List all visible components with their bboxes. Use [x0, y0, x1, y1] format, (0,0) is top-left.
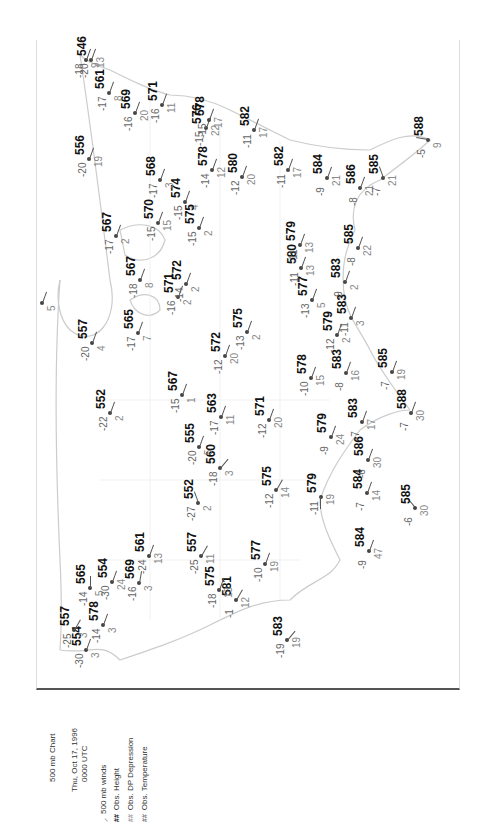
- obs-temperature: -10: [299, 382, 310, 396]
- obs-temperature: -7: [350, 431, 361, 440]
- obs-temperature: -19: [275, 644, 286, 658]
- obs-temperature: -12: [264, 494, 275, 508]
- obs-height: 582: [238, 106, 252, 126]
- obs-dp-depression: 19: [93, 156, 104, 167]
- obs-temperature: -14: [91, 629, 102, 643]
- obs-height: 585: [399, 484, 413, 504]
- obs-dp-depression: 11: [166, 103, 177, 113]
- obs-height: 586: [344, 164, 358, 184]
- obs-temperature: -18: [128, 284, 139, 298]
- obs-dp-depression: 8: [113, 95, 124, 101]
- obs-height: 583: [346, 398, 360, 418]
- obs-height: 584: [311, 154, 325, 174]
- obs-dp-depression: 30: [415, 410, 426, 421]
- obs-dp-depression: 5: [203, 449, 214, 455]
- obs-dp-depression: 17: [292, 167, 303, 178]
- obs-dp-depression: 11: [205, 554, 216, 564]
- legend-item-height: ##Obs. Height: [112, 768, 121, 822]
- obs-temperature: -13: [300, 304, 311, 318]
- obs-temperature: -17: [148, 184, 159, 198]
- obs-temperature: -17: [97, 97, 108, 111]
- obs-height: 571: [146, 81, 160, 101]
- obs-temperature: -30: [100, 586, 111, 600]
- obs-temperature: -1: [224, 609, 235, 618]
- obs-dp-depression: 11: [225, 415, 236, 425]
- obs-height: 585: [367, 154, 381, 174]
- obs-dp-depression: 3: [90, 652, 101, 658]
- obs-dp-depression: 3: [355, 320, 366, 326]
- obs-temperature: -11: [242, 134, 253, 148]
- obs-height: 570: [142, 199, 156, 219]
- obs-temperature: -9: [333, 291, 344, 300]
- legend-date: Thu, Oct 17, 1996: [70, 728, 79, 792]
- obs-height: 585: [342, 224, 356, 244]
- obs-height: 577: [249, 540, 263, 560]
- obs-temperature: -20: [77, 163, 88, 177]
- obs-height: 582: [272, 146, 286, 166]
- obs-temperature: -9: [319, 446, 330, 455]
- obs-temperature: -18: [74, 64, 85, 78]
- obs-temperature: -24: [137, 560, 148, 574]
- obs-temperature: -17: [104, 240, 115, 254]
- obs-height: 565: [74, 564, 88, 584]
- obs-dp-depression: 13: [304, 242, 315, 253]
- obs-temperature: -16: [123, 117, 134, 131]
- obs-temperature: -25: [189, 560, 200, 574]
- obs-height: 569: [123, 559, 137, 579]
- obs-temperature: -11: [289, 272, 300, 286]
- obs-dp-depression: 9: [432, 142, 443, 148]
- obs-height: 565: [122, 309, 136, 329]
- obs-temperature: -10: [253, 568, 264, 582]
- obs-height: 575: [260, 466, 274, 486]
- obs-height: 563: [205, 393, 219, 413]
- obs-dp-depression: 14: [280, 487, 291, 498]
- obs-temperature: -9: [315, 187, 326, 196]
- obs-temperature: -17: [209, 421, 220, 435]
- obs-temperature: -8: [334, 382, 345, 391]
- obs-dp-depression: 13: [305, 265, 316, 276]
- obs-temperature: -17: [126, 337, 137, 351]
- legend-item-winds: ⸝500 mb winds: [98, 765, 109, 822]
- obs-temperature: -15: [170, 399, 181, 413]
- obs-height: 567: [124, 256, 138, 276]
- obs-temperature: -15: [187, 232, 198, 246]
- obs-dp-depression: 24: [116, 579, 127, 590]
- obs-dp-depression: 15: [315, 375, 326, 386]
- obs-dp-depression: 2: [120, 238, 131, 244]
- obs-dp-depression: 16: [350, 370, 361, 381]
- obs-dp-depression: 9: [90, 62, 101, 68]
- obs-height: 575: [231, 308, 245, 328]
- obs-height: 552: [182, 479, 196, 499]
- obs-dp-depression: 17: [366, 419, 377, 430]
- obs-dp-depression: 19: [269, 561, 280, 572]
- legend-item-dp-depression: ##Obs. DP Depression: [126, 737, 135, 822]
- obs-height: 578: [193, 96, 207, 116]
- legend-title: 500 mb Chart: [48, 734, 57, 782]
- obs-temperature: -11: [276, 174, 287, 188]
- obs-height: 572: [209, 332, 223, 352]
- obs-temperature: -27: [186, 507, 197, 521]
- obs-height: 572: [170, 260, 184, 280]
- obs-height: 561: [93, 69, 107, 89]
- obs-temperature: -18: [208, 472, 219, 486]
- obs-dp-depression: 4: [96, 345, 107, 351]
- obs-dp-depression: 2: [251, 334, 262, 340]
- obs-temperature: -20: [80, 347, 91, 361]
- obs-temperature: -30: [74, 654, 85, 668]
- obs-height: 588: [412, 116, 426, 136]
- obs-dp-depression: 20: [229, 353, 240, 364]
- obs-height: 556: [73, 135, 87, 155]
- obs-dp-depression: 15: [162, 220, 173, 231]
- obs-temperature: -15: [146, 227, 157, 241]
- obs-height: 571: [253, 396, 267, 416]
- obs-temperature: -16: [150, 109, 161, 123]
- obs-dp-depression: 13: [223, 587, 234, 598]
- obs-dp-depression: 20: [273, 417, 284, 428]
- obs-temperature: -12: [257, 424, 268, 438]
- obs-height: 575: [203, 566, 217, 586]
- legend-time: 0000 UTC: [80, 746, 89, 782]
- obs-height: 579: [284, 221, 298, 241]
- obs-dp-depression: 12: [240, 597, 251, 608]
- obs-temperature: -5: [416, 149, 427, 158]
- obs-height: 552: [94, 389, 108, 409]
